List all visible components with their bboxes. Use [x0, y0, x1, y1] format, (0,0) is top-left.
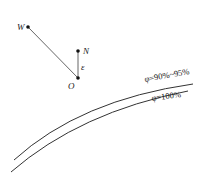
- label-N: N: [82, 46, 90, 56]
- line-OW: [28, 27, 78, 78]
- diagram-canvas: W N O ε φ=90%~95% φ=100%: [0, 0, 207, 180]
- curve-label-phi-90-95: φ=90%~95%: [144, 66, 191, 84]
- point-O: [76, 76, 80, 80]
- point-W: [26, 25, 30, 29]
- point-N: [76, 49, 80, 53]
- curve-phi-100: [11, 91, 188, 172]
- angle-epsilon-label: ε: [81, 62, 85, 72]
- label-O: O: [68, 81, 75, 91]
- label-W: W: [17, 22, 26, 32]
